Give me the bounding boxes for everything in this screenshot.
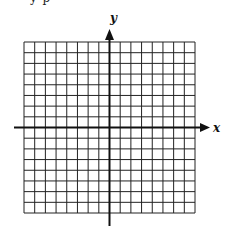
x-axis-label: x <box>212 121 221 135</box>
coordinate-plane: x y <box>0 0 231 226</box>
x-axis-arrow-icon <box>200 123 210 132</box>
y-axis-arrow-icon <box>105 29 114 40</box>
y-axis-label: y <box>109 11 118 25</box>
